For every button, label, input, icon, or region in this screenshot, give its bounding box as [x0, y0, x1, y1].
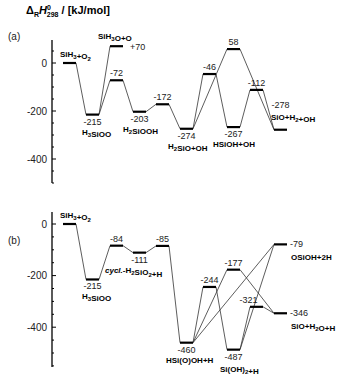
energy-value-label: -84 [110, 234, 123, 244]
connector-line [193, 287, 203, 343]
species-label: H2SiO+OH [168, 142, 208, 153]
species-label: Si(OH)2+H [220, 365, 259, 376]
energy-value-label: -215 [83, 117, 101, 127]
connector-line [240, 90, 250, 127]
connector-line [76, 224, 86, 279]
energy-value-label: -85 [156, 234, 169, 244]
connector-line [169, 104, 180, 128]
panel-a: 0-200-400SiH3+O2-215H3SiOO+70SiH3O+O-72-… [27, 32, 315, 183]
panel-b-label: (b) [8, 235, 20, 246]
species-label: SiO+H2+OH [271, 113, 315, 124]
species-label: HSi(O)OH+H [166, 356, 214, 365]
species-label: cycl.-H2SiO2+H [105, 266, 162, 279]
energy-value-label: -203 [130, 114, 148, 124]
energy-value-label: -244 [200, 275, 218, 285]
y-tick-label: 0 [41, 58, 47, 69]
connector-line [240, 307, 250, 350]
connector-line [146, 104, 156, 111]
energy-value-label: -72 [110, 68, 123, 78]
connector-line [263, 90, 274, 130]
panel-a-label: (a) [8, 31, 20, 42]
energy-value-label: -460 [177, 345, 195, 355]
energy-value-label: -346 [290, 308, 308, 318]
energy-value-label: -215 [83, 281, 101, 291]
species-label: HSiOH+OH [213, 140, 255, 149]
connector-line [169, 246, 180, 343]
connector-line [146, 246, 156, 253]
energy-value-label: -79 [290, 239, 303, 249]
connector-line [76, 63, 86, 115]
y-tick-label: 0 [41, 219, 47, 230]
energy-value-label: -172 [153, 92, 171, 102]
connector-line [263, 307, 274, 313]
panel-b: 0-200-400SiH3+O2-215H3SiOO-84-111cycl.-H… [27, 211, 335, 376]
species-label: OSiOH+2H [291, 253, 332, 262]
energy-value-label: +70 [130, 42, 145, 52]
connector-line [99, 80, 110, 114]
species-label: SiH3+O2 [60, 211, 92, 223]
y-tick-label: -200 [27, 106, 47, 117]
connector-line [216, 74, 227, 127]
species-label: H3SiOO [82, 292, 111, 303]
energy-value-label: -267 [224, 129, 242, 139]
energy-diagram: ΔRH0298 / [kJ/mol] (a) (b) 0-200-400SiH3… [0, 0, 351, 387]
energy-value-label: -487 [224, 352, 242, 362]
species-label: H3SiOO [82, 128, 111, 139]
energy-value-label: -112 [248, 78, 265, 88]
y-tick-label: -400 [27, 154, 47, 165]
energy-value-label: -46 [203, 62, 216, 72]
species-label: SiH3O+O [98, 32, 132, 43]
connector-line [193, 74, 203, 129]
connector-line [193, 49, 227, 129]
species-label: SiO+H2O+H [291, 322, 335, 333]
species-label: H2SiOOH [123, 125, 158, 136]
energy-value-label: -274 [177, 131, 195, 141]
connector-line [123, 80, 133, 111]
y-axis-label: ΔRH0298 / [kJ/mol] [26, 4, 110, 18]
connector-line [99, 46, 110, 114]
connector-line [123, 246, 133, 253]
y-tick-label: -400 [27, 322, 47, 333]
energy-value-label: 58 [228, 37, 238, 47]
connector-line [216, 287, 227, 350]
y-tick-label: -200 [27, 270, 47, 281]
energy-value-label: -177 [224, 258, 242, 268]
species-label: SiH3+O2 [60, 50, 92, 62]
energy-value-label: -321 [239, 295, 257, 305]
energy-value-label: -111 [131, 255, 148, 265]
energy-value-label: -278 [271, 100, 289, 110]
